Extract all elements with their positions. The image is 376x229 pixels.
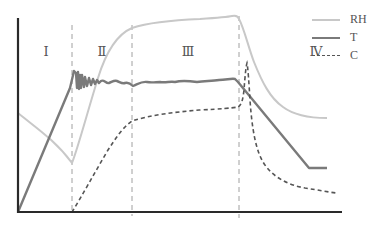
legend-label-t: T [350,29,357,45]
region-label-2: Ⅱ [98,44,107,60]
legend-label-rh: RH [350,11,367,27]
legend-swatch-rh [312,19,340,21]
legend-swatch-t [312,37,340,39]
series-c [72,63,336,212]
legend-swatch-c [312,55,340,56]
series-t [18,71,327,212]
axes [17,18,342,213]
legend-item-rh: RH [312,11,376,29]
series-rh [18,16,327,163]
legend-label-c: C [350,47,358,63]
legend-item-c: C [312,47,376,65]
region-label-1: Ⅰ [43,44,48,60]
region-label-3: Ⅲ [182,44,195,60]
legend-item-t: T [312,29,376,47]
